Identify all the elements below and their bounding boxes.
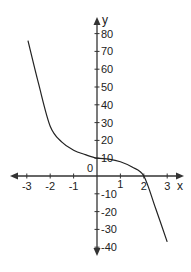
y-axis-up-arrow	[94, 17, 101, 25]
x-tick-label: 3	[164, 180, 170, 192]
y-tick-label: -40	[101, 241, 117, 253]
x-tick-label: -1	[69, 180, 79, 192]
y-tick-label: 70	[101, 45, 113, 57]
y-ticks: 8070605040302010-10-20-30-40	[95, 28, 117, 254]
y-axis-down-arrow	[94, 248, 101, 256]
y-tick-label: 80	[101, 28, 113, 40]
x-axis-title: x	[177, 179, 183, 193]
y-tick-label: 30	[101, 117, 113, 129]
y-tick-label: 40	[101, 99, 113, 111]
x-tick-label: 1	[117, 178, 123, 190]
x-tick-label: -3	[22, 180, 32, 192]
axes	[10, 17, 184, 256]
y-tick-label: 20	[101, 134, 113, 146]
x-axis-left-arrow	[10, 173, 18, 180]
y-tick-label: 60	[101, 63, 113, 75]
x-tick-label: -2	[45, 180, 55, 192]
y-tick-label: 50	[101, 81, 113, 93]
origin-label: 0	[87, 162, 93, 174]
y-axis-title: y	[102, 13, 108, 27]
chart: -3-2-1123 8070605040302010-10-20-30-40 x…	[0, 0, 191, 272]
y-tick-label: -30	[101, 223, 117, 235]
y-tick-label: -20	[101, 206, 117, 218]
y-tick-label: -10	[101, 188, 117, 200]
